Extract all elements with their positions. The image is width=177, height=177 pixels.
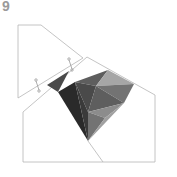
origami-diagram bbox=[0, 0, 177, 177]
